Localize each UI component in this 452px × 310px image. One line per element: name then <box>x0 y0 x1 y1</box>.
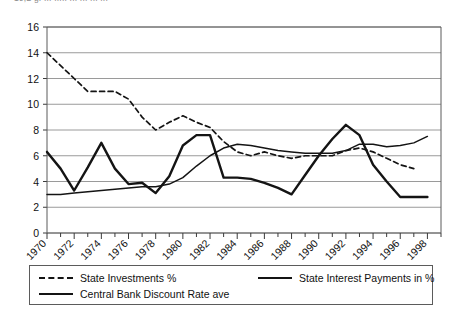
x-axis-tick-label: 1974 <box>78 237 103 262</box>
legend-label-state-investments: State Investments % <box>80 272 176 285</box>
legend-item-state-interest-payments: State Interest Payments in % <box>258 271 434 285</box>
legend-item-central-bank-discount-rate: Central Bank Discount Rate ave <box>39 287 229 301</box>
x-axis-tick-label: 1998 <box>404 237 429 262</box>
x-axis-tick-label: 1994 <box>349 237 374 262</box>
legend-item-state-investments: State Investments % <box>39 271 176 285</box>
legend-label-state-interest-payments: State Interest Payments in % <box>299 272 434 285</box>
series-line-2 <box>47 125 427 197</box>
x-axis-tick-label: 1982 <box>186 237 211 262</box>
y-axis-tick-label: 0 <box>33 227 39 239</box>
y-axis-tick-label: 16 <box>27 21 39 33</box>
y-axis-tick-label: 12 <box>27 73 39 85</box>
chart-page: 19,2 g. ... ..... ... ... ... ... 024681… <box>0 0 452 310</box>
y-axis-tick-label: 4 <box>33 176 39 188</box>
y-axis-tick-label: 2 <box>33 201 39 213</box>
x-axis-tick-label: 1978 <box>132 237 157 262</box>
x-axis-tick-label: 1986 <box>241 237 266 262</box>
x-axis-tick-label: 1996 <box>377 237 402 262</box>
legend-label-central-bank-discount-rate: Central Bank Discount Rate ave <box>80 288 229 301</box>
y-axis-tick-label: 8 <box>33 124 39 136</box>
chart-legend: State Investments % State Interest Payme… <box>29 265 433 305</box>
x-axis-tick-label: 1990 <box>295 237 320 262</box>
y-axis-tick-label: 6 <box>33 150 39 162</box>
line-chart: 0246810121416197019721974197619781980198… <box>0 14 452 264</box>
legend-swatch-dashed-icon <box>39 277 73 279</box>
y-axis-tick-label: 14 <box>27 47 39 59</box>
series-line-1 <box>47 136 427 194</box>
clipped-caption-text: 19,2 g. ... ..... ... ... ... ... <box>14 0 254 5</box>
series-line-0 <box>47 53 414 169</box>
x-axis-tick-label: 1980 <box>159 237 184 262</box>
x-axis-tick-label: 1972 <box>51 237 76 262</box>
x-axis-tick-label: 1988 <box>268 237 293 262</box>
x-axis-tick-label: 1984 <box>214 237 239 262</box>
x-axis-tick-label: 1992 <box>322 237 347 262</box>
x-axis-tick-label: 1976 <box>105 237 130 262</box>
x-axis-tick-label: 1970 <box>23 237 48 262</box>
legend-swatch-solid-thick-icon <box>39 293 73 295</box>
chart-canvas: 0246810121416197019721974197619781980198… <box>0 14 452 264</box>
legend-swatch-solid-thin-icon <box>258 277 292 279</box>
y-axis-tick-label: 10 <box>27 98 39 110</box>
